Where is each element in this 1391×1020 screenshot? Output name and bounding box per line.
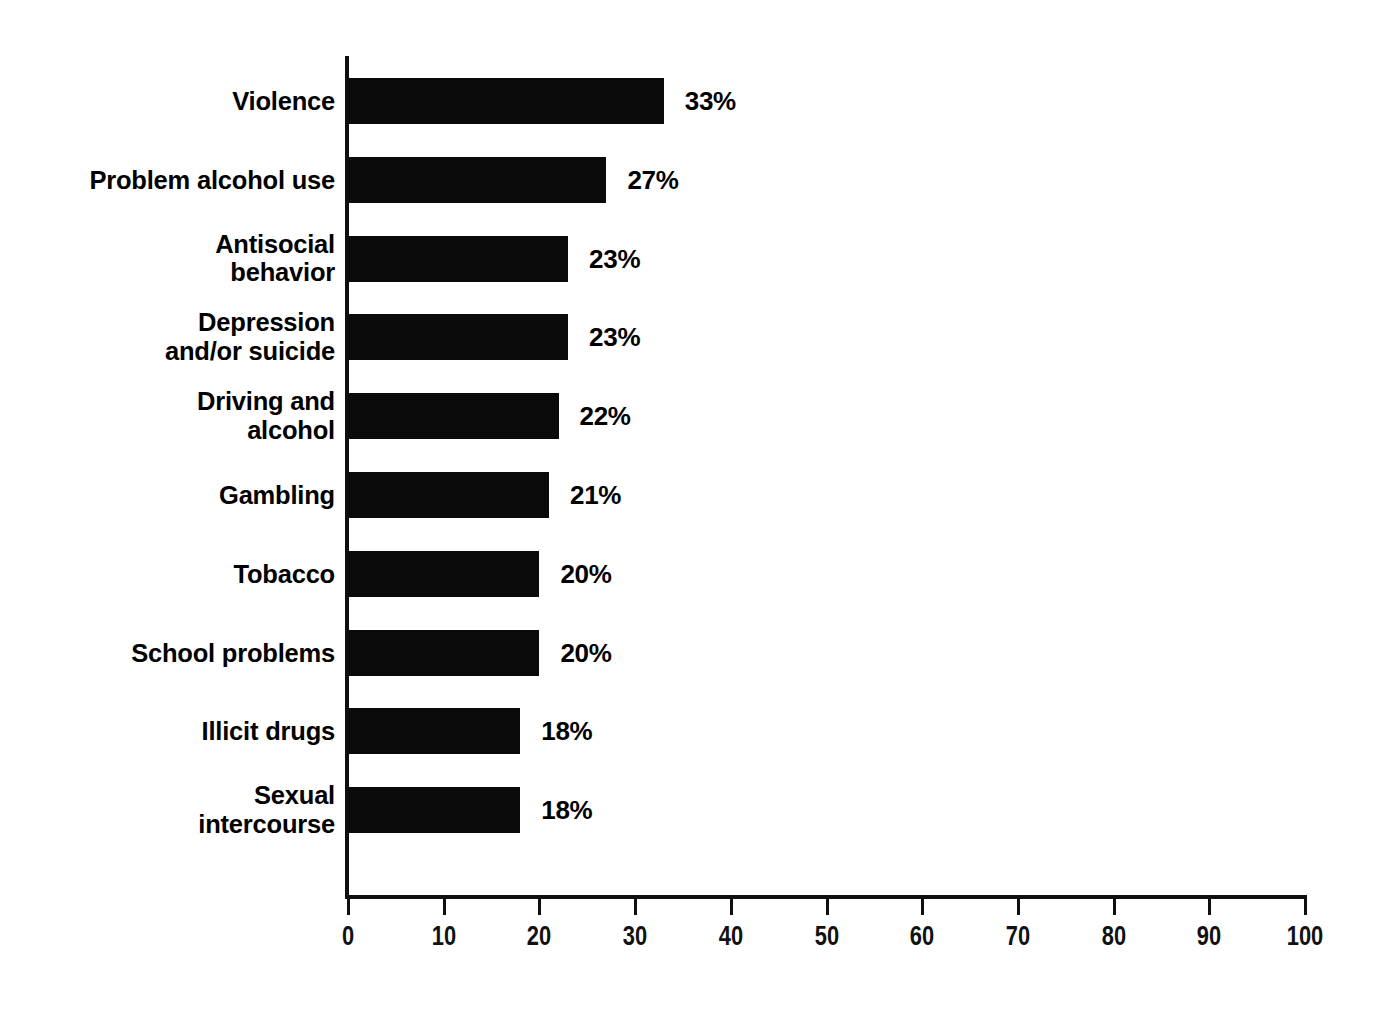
bar-value-label: 18% — [541, 716, 592, 747]
value-axis-tick — [634, 899, 637, 915]
value-axis-tick-label: 0 — [340, 920, 356, 952]
value-axis-tick — [347, 899, 350, 915]
value-axis-tick — [1208, 899, 1211, 915]
bar — [348, 551, 539, 597]
value-axis-tick — [921, 899, 924, 915]
bar-row: Problem alcohol use27% — [0, 157, 1391, 203]
bar-row: Violence33% — [0, 78, 1391, 124]
bar-value-label: 21% — [570, 480, 621, 511]
bar — [348, 393, 559, 439]
value-axis-tick-label: 100 — [1282, 920, 1329, 952]
value-axis-tick-label: 30 — [620, 920, 651, 952]
bar-value-label: 20% — [560, 558, 611, 589]
bar-chart: Violence33%Problem alcohol use27%Antisoc… — [0, 0, 1391, 1020]
category-label: Gambling — [219, 481, 335, 510]
category-label: Sexual intercourse — [198, 781, 335, 839]
value-axis-tick — [1304, 899, 1307, 915]
category-label: Driving and alcohol — [197, 387, 335, 445]
bar — [348, 314, 568, 360]
value-axis-tick-label: 40 — [715, 920, 746, 952]
value-axis-tick-label: 20 — [524, 920, 555, 952]
bar — [348, 236, 568, 282]
bar-row: School problems20% — [0, 630, 1391, 676]
value-axis-tick — [538, 899, 541, 915]
bar-value-label: 23% — [589, 322, 640, 353]
category-label: Problem alcohol use — [89, 165, 335, 194]
bar-value-label: 33% — [685, 86, 736, 117]
bar-row: Tobacco20% — [0, 551, 1391, 597]
bar-value-label: 22% — [580, 401, 631, 432]
category-label: School problems — [131, 638, 335, 667]
bar-row: Depression and/or suicide23% — [0, 314, 1391, 360]
category-label: Tobacco — [233, 559, 335, 588]
value-axis-tick-label: 10 — [428, 920, 459, 952]
bar-row: Antisocial behavior23% — [0, 236, 1391, 282]
bar — [348, 630, 539, 676]
bar — [348, 472, 549, 518]
category-label: Antisocial behavior — [215, 230, 335, 288]
value-axis-tick — [826, 899, 829, 915]
bar-value-label: 20% — [560, 637, 611, 668]
bar — [348, 78, 664, 124]
bar-row: Driving and alcohol22% — [0, 393, 1391, 439]
value-axis-tick-label: 70 — [1002, 920, 1033, 952]
value-axis-tick-label: 60 — [907, 920, 938, 952]
chart-page: Violence33%Problem alcohol use27%Antisoc… — [0, 0, 1391, 1020]
bar-row: Gambling21% — [0, 472, 1391, 518]
value-axis-tick-label: 50 — [811, 920, 842, 952]
bar — [348, 708, 520, 754]
category-label: Depression and/or suicide — [165, 309, 335, 367]
value-axis-tick — [443, 899, 446, 915]
bar-value-label: 27% — [627, 164, 678, 195]
category-label: Illicit drugs — [202, 717, 335, 746]
bar-row: Sexual intercourse18% — [0, 787, 1391, 833]
bar-value-label: 23% — [589, 243, 640, 274]
bar — [348, 157, 606, 203]
category-label: Violence — [232, 87, 335, 116]
value-axis-tick — [1113, 899, 1116, 915]
bar-value-label: 18% — [541, 795, 592, 826]
value-axis-tick-label: 90 — [1194, 920, 1225, 952]
value-axis-tick — [1017, 899, 1020, 915]
value-axis-tick-label: 80 — [1098, 920, 1129, 952]
value-axis-tick — [730, 899, 733, 915]
bar — [348, 787, 520, 833]
bar-row: Illicit drugs18% — [0, 708, 1391, 754]
